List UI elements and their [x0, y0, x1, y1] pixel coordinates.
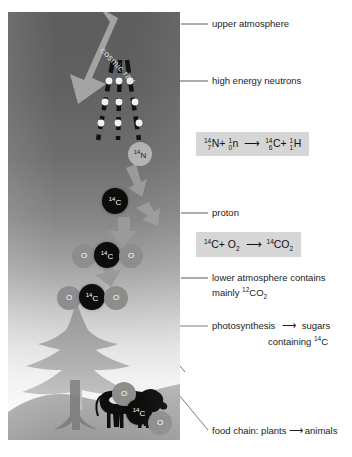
label-photosynthesis-group: photosynthesis ⟶ sugars — [212, 320, 330, 332]
atom-carbon-14-lower: 14C — [79, 284, 105, 310]
label-lower-atmosphere: lower atmosphere contains mainly 12CO2 — [212, 272, 326, 303]
illustration-panel: cosmic ray 14N 14C O 14C O O — [8, 12, 180, 440]
atom-carbon-14-free: 14C — [102, 188, 128, 214]
arrow-proton — [136, 202, 160, 226]
arrow-to-animals-icon: ⟶ — [289, 425, 302, 436]
cosmic-ray-label: cosmic ray — [98, 46, 137, 86]
eq-arrow-icon: ⟶ — [244, 137, 259, 149]
eq-n14-indices: 14 7 — [204, 137, 211, 151]
atom-oxygen-right-upper: O — [119, 244, 143, 268]
atom-oxygen-lower-ground: O — [148, 411, 172, 435]
label-sugars-containing: containing 14C — [268, 333, 328, 348]
atom-nitrogen-14: 14N — [128, 142, 152, 166]
arrow-to-sugars-icon: ⟶ — [282, 320, 295, 331]
eq-neutron-indices: 1 0 — [228, 137, 232, 151]
eq-c14-symbol: C — [273, 137, 281, 149]
eq-hydrogen-symbol: H — [294, 137, 302, 149]
label-lower-atmosphere-line1: lower atmosphere contains — [212, 272, 326, 284]
diagram-canvas: cosmic ray 14N 14C O 14C O O — [0, 0, 352, 457]
label-proton: proton — [212, 207, 239, 219]
eq-neutron-symbol: n — [233, 137, 239, 149]
eq-hydrogen-indices: 1 1 — [290, 137, 294, 151]
label-sugars: sugars — [302, 320, 331, 331]
arrow-carbon-to-co2 — [109, 217, 137, 246]
label-food-chain: food chain: plants ⟶ animals — [212, 425, 337, 437]
equation-nuclear-reaction: 14 7 N+ 1 0 n ⟶ 14 6 C+ 1 1 H — [196, 132, 309, 156]
atom-oxygen-left-upper: O — [72, 244, 96, 268]
eq-n14-symbol: N — [212, 137, 220, 149]
atom-oxygen-right-lower: O — [104, 286, 128, 310]
label-photosynthesis: photosynthesis — [212, 320, 275, 331]
eq2-arrow-icon: ⟶ — [246, 238, 261, 250]
equation-oxidation: 14C+ O2 ⟶ 14CO2 — [196, 232, 301, 257]
label-upper-atmosphere: upper atmosphere — [212, 18, 289, 30]
label-lower-atmosphere-line2: mainly 12CO2 — [212, 284, 326, 303]
atom-oxygen-left-lower: O — [57, 286, 81, 310]
eq-c14-indices: 14 6 — [265, 137, 272, 151]
arrow-nitrogen-to-carbon — [126, 164, 147, 197]
cosmic-ray-group: cosmic ray — [94, 14, 180, 110]
label-high-energy-neutrons: high energy neutrons — [212, 75, 301, 87]
atom-carbon-14-upper: 14C — [94, 242, 120, 268]
